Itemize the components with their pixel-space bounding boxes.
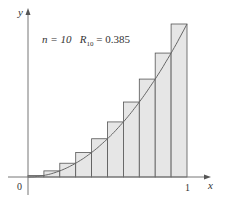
r-value: = 0.385 (93, 33, 129, 45)
bar (76, 153, 92, 177)
bar (155, 53, 171, 177)
bar (123, 102, 139, 177)
x-tick-1: 1 (185, 182, 190, 193)
bar (92, 139, 108, 177)
bar (171, 24, 187, 177)
n-label: n = 10 (42, 33, 71, 45)
riemann-chart (0, 0, 225, 207)
y-axis-arrow-icon (26, 8, 31, 15)
x-tick-0: 0 (17, 181, 22, 192)
x-axis-label: x (208, 179, 213, 191)
bar (139, 79, 155, 177)
y-axis-label: y (18, 6, 23, 18)
annotation: n = 10 R10 = 0.385 (42, 33, 130, 48)
